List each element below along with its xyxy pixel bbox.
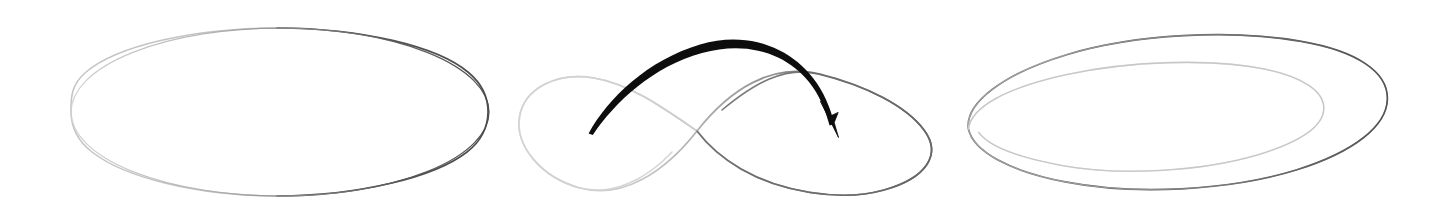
lemniscate-figure — [519, 40, 931, 196]
figure-board: Ellipse Lemniscate Spiral Direction arro… — [0, 0, 1443, 214]
direction-arrow — [589, 40, 839, 138]
lemniscate-right-lobe-dark — [697, 72, 931, 195]
spiral-outer-gradient — [964, 25, 1392, 200]
ellipse-dark-arc — [277, 28, 488, 196]
arrowhead — [820, 101, 838, 137]
spiral-outer-turn — [964, 25, 1392, 200]
ellipse-light-arc — [71, 28, 277, 196]
arrow-shaft — [589, 40, 835, 135]
curves-canvas — [0, 0, 1443, 214]
ellipse-figure — [71, 28, 489, 196]
spiral-figure — [964, 25, 1392, 200]
lemniscate-outline — [519, 71, 931, 195]
ellipse-outline — [71, 28, 489, 196]
lemniscate-left-lobe-light — [519, 77, 697, 190]
